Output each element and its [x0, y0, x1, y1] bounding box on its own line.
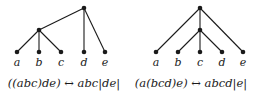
- tree-edge: [39, 30, 61, 52]
- tree-node-leaf-e: [241, 50, 246, 55]
- tree-node-leaf-d: [82, 50, 87, 55]
- tree-node-leaf-a: [15, 50, 20, 55]
- tree-node-internal: [198, 28, 203, 33]
- leaf-label-c: c: [197, 56, 203, 69]
- tree-node-leaf-c: [198, 50, 203, 55]
- tree-node-leaf-a: [154, 50, 159, 55]
- leaf-label-a: a: [14, 56, 21, 69]
- leaf-label-d: d: [80, 56, 87, 69]
- tree-node-leaf-b: [176, 50, 181, 55]
- tree-edge: [84, 8, 105, 52]
- tree-edge: [156, 8, 200, 52]
- caption-right: (a(bcd)e) ↔ abcd|e|: [127, 76, 255, 91]
- tree-node-root: [198, 6, 203, 11]
- leaf-label-e: e: [240, 56, 247, 69]
- leaf-label-b: b: [35, 56, 42, 69]
- tree-node-leaf-b: [37, 50, 42, 55]
- leaf-label-e: e: [102, 56, 109, 69]
- leaf-label-row-left: abcde: [0, 56, 128, 72]
- tree-node-leaf-c: [59, 50, 64, 55]
- tree-edge: [178, 30, 200, 52]
- figure-panel-right: abcde (a(bcd)e) ↔ abcd|e|: [127, 0, 255, 97]
- tree-node-internal: [37, 28, 42, 33]
- leaf-label-c: c: [58, 56, 64, 69]
- figure-panel-left: abcde ((abc)de) ↔ abc|de|: [0, 0, 128, 97]
- tree-node-leaf-d: [220, 50, 225, 55]
- leaf-label-row-right: abcde: [127, 56, 255, 72]
- tree-edge: [17, 30, 39, 52]
- tree-node-leaf-e: [103, 50, 108, 55]
- leaf-label-d: d: [218, 56, 225, 69]
- tree-bracketing-figure: abcde ((abc)de) ↔ abc|de| abcde (a(bcd)e…: [0, 0, 255, 97]
- tree-edge: [200, 30, 222, 52]
- tree-node-root: [82, 6, 87, 11]
- leaf-label-a: a: [153, 56, 160, 69]
- leaf-label-b: b: [174, 56, 181, 69]
- tree-edge: [200, 8, 243, 52]
- tree-edge: [39, 8, 84, 30]
- caption-left: ((abc)de) ↔ abc|de|: [0, 76, 128, 91]
